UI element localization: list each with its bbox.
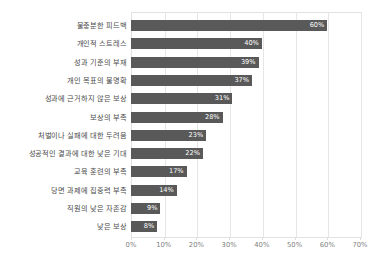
bar[interactable]: 9% [131, 203, 160, 214]
bar-container: 9% [131, 203, 160, 214]
bar[interactable]: 17% [131, 166, 187, 177]
x-tick-label: 10% [156, 241, 171, 250]
x-tick-label: 70% [352, 241, 367, 250]
category-label: 성과에 근거하지 않은 보상 [0, 93, 127, 104]
x-axis: 0%10%20%30%40%50%60%70% [0, 237, 387, 257]
category-label: 보상의 부족 [0, 112, 127, 123]
bar-container: 28% [131, 112, 223, 123]
bar-container: 40% [131, 38, 262, 49]
bar[interactable]: 60% [131, 20, 327, 31]
x-tick-mark [131, 237, 132, 240]
bar-row: 당면 과제에 집중력 부족14% [0, 185, 387, 196]
bar[interactable]: 39% [131, 57, 259, 68]
bar-row: 불충분한 피드백60% [0, 20, 387, 31]
bar[interactable]: 14% [131, 185, 177, 196]
category-label: 처벌이나 실패에 대한 두려움 [0, 130, 127, 141]
x-tick-label: 30% [222, 241, 237, 250]
bar[interactable]: 40% [131, 38, 262, 49]
bar-container: 31% [131, 93, 232, 104]
bar-row: 성과 기준의 부재39% [0, 57, 387, 68]
bar-row: 개인 목표의 불명확37% [0, 75, 387, 86]
bar-row: 성과에 근거하지 않은 보상31% [0, 93, 387, 104]
bar-row: 성공적인 결과에 대한 낮은 기대22% [0, 148, 387, 159]
category-label: 성공적인 결과에 대한 낮은 기대 [0, 148, 127, 159]
bar-value-label: 8% [144, 221, 154, 232]
x-tick-mark [360, 237, 361, 240]
bar[interactable]: 28% [131, 112, 223, 123]
x-tick-mark [327, 237, 328, 240]
bar-value-label: 39% [241, 57, 256, 68]
x-tick-label: 60% [320, 241, 335, 250]
x-tick-label: 0% [126, 241, 137, 250]
bar-container: 60% [131, 20, 327, 31]
bar-container: 39% [131, 57, 259, 68]
bar-row: 처벌이나 실패에 대한 두려움23% [0, 130, 387, 141]
bar-chart: 불충분한 피드백60%개인적 스트레스40%성과 기준의 부재39%개인 목표의… [0, 0, 387, 276]
bar[interactable]: 37% [131, 75, 252, 86]
bar[interactable]: 31% [131, 93, 232, 104]
bar-value-label: 9% [147, 203, 157, 214]
bar-value-label: 23% [189, 130, 204, 141]
bar[interactable]: 22% [131, 148, 203, 159]
bar-container: 14% [131, 185, 177, 196]
bar-value-label: 37% [234, 75, 249, 86]
category-label: 불충분한 피드백 [0, 20, 127, 31]
bar-value-label: 28% [205, 112, 220, 123]
bar-value-label: 31% [215, 93, 230, 104]
bar-container: 23% [131, 130, 206, 141]
bar-row: 낮은 보상8% [0, 221, 387, 232]
bar-value-label: 22% [185, 148, 200, 159]
bar-container: 8% [131, 221, 157, 232]
bar-value-label: 40% [244, 38, 259, 49]
category-label: 낮은 보상 [0, 221, 127, 232]
bar-row: 교육 훈련의 부족17% [0, 166, 387, 177]
bar-value-label: 17% [169, 166, 184, 177]
x-tick-label: 20% [189, 241, 204, 250]
category-label: 당면 과제에 집중력 부족 [0, 185, 127, 196]
bar-row: 보상의 부족28% [0, 112, 387, 123]
bar-container: 22% [131, 148, 203, 159]
bar-row: 개인적 스트레스40% [0, 38, 387, 49]
bar-value-label: 60% [310, 20, 325, 31]
bar[interactable]: 23% [131, 130, 206, 141]
category-label: 교육 훈련의 부족 [0, 166, 127, 177]
bar-row: 직원의 낮은 자존감9% [0, 203, 387, 214]
x-tick-label: 50% [287, 241, 302, 250]
x-tick-mark [164, 237, 165, 240]
category-label: 개인적 스트레스 [0, 38, 127, 49]
x-tick-mark [295, 237, 296, 240]
bar-value-label: 14% [159, 185, 174, 196]
category-label: 직원의 낮은 자존감 [0, 203, 127, 214]
bar-rows: 불충분한 피드백60%개인적 스트레스40%성과 기준의 부재39%개인 목표의… [0, 12, 387, 236]
x-tick-mark [262, 237, 263, 240]
category-label: 개인 목표의 불명확 [0, 75, 127, 86]
category-label: 성과 기준의 부재 [0, 57, 127, 68]
x-tick-mark [229, 237, 230, 240]
x-tick-mark [196, 237, 197, 240]
x-tick-label: 40% [254, 241, 269, 250]
bar[interactable]: 8% [131, 221, 157, 232]
bar-container: 37% [131, 75, 252, 86]
bar-container: 17% [131, 166, 187, 177]
